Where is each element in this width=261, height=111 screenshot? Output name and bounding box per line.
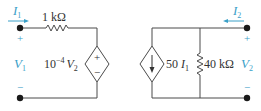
output-voltage-label: V2 xyxy=(241,56,253,73)
output-terminal-top[interactable] xyxy=(244,25,250,31)
input-terminal-top[interactable] xyxy=(17,25,23,31)
vcvs-gain-label: 10−4V2 xyxy=(44,56,78,73)
right-circuit: 50I1 40 kΩ I2 + V2 − xyxy=(140,3,253,101)
input-terminal-bottom[interactable] xyxy=(17,95,23,101)
output-terminal-bottom[interactable] xyxy=(244,95,250,101)
svg-text:−: − xyxy=(94,66,100,78)
input-voltage-plus: + xyxy=(17,32,23,44)
input-voltage-minus: − xyxy=(17,81,23,93)
series-resistor-label: 1 kΩ xyxy=(42,10,66,24)
svg-text:+: + xyxy=(94,51,100,63)
resistor-40k-icon xyxy=(197,53,203,75)
dependent-current-source-icon xyxy=(140,46,164,82)
input-voltage-label: V1 xyxy=(14,56,26,73)
left-circuit: I1 1 kΩ + − 10−4V2 + V1 − xyxy=(8,3,109,101)
input-current-label: I1 xyxy=(12,3,21,20)
output-voltage-minus: − xyxy=(244,81,250,93)
output-voltage-plus: + xyxy=(244,32,250,44)
shunt-resistor-label: 40 kΩ xyxy=(204,57,234,71)
cccs-gain-label: 50I1 xyxy=(166,57,189,73)
circuit-diagram: I1 1 kΩ + − 10−4V2 + V1 − xyxy=(0,0,261,111)
output-current-label: I2 xyxy=(232,3,241,20)
dependent-voltage-source-icon: + − xyxy=(85,46,109,82)
resistor-1k-icon xyxy=(46,25,68,31)
